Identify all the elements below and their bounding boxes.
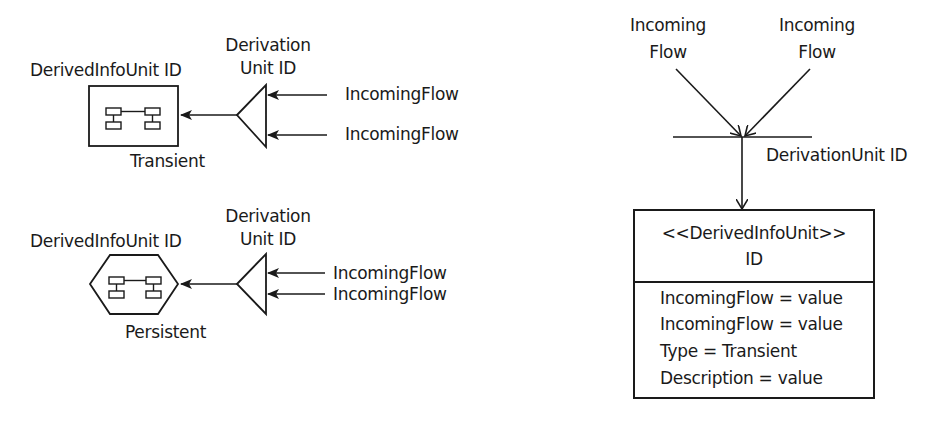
transient-derived-info-unit	[89, 86, 178, 146]
uml-incoming-flow-2-line2: Flow	[767, 44, 867, 61]
transient-derivation-label-line1: Derivation	[212, 37, 324, 54]
component-structure-icon	[106, 108, 160, 129]
uml-attribute-description: Description = value	[660, 370, 823, 387]
uml-attribute-incoming-flow-1: IncomingFlow = value	[660, 290, 843, 307]
uml-attribute-incoming-flow-2: IncomingFlow = value	[660, 316, 843, 333]
persistent-unit-hexagon	[90, 255, 178, 314]
transient-type-label: Transient	[130, 153, 205, 170]
transient-incoming-flow-label-2: IncomingFlow	[345, 126, 459, 143]
uml-incoming-flow-arrow-2	[745, 69, 810, 136]
transient-unit-box	[89, 86, 178, 146]
component-structure-icon	[109, 277, 161, 298]
persistent-incoming-flow-label-2: IncomingFlow	[333, 286, 447, 303]
uml-attribute-type: Type = Transient	[660, 343, 797, 360]
derivation-unit-triangle	[237, 254, 266, 314]
persistent-derived-info-unit	[90, 255, 178, 314]
persistent-incoming-flow-label-1: IncomingFlow	[333, 265, 447, 282]
uml-class-name: ID	[634, 251, 874, 268]
derivation-unit-triangle	[237, 85, 266, 147]
uml-derivation-unit-label: DerivationUnit ID	[766, 147, 907, 164]
uml-incoming-flow-2-line1: Incoming	[767, 17, 867, 34]
transient-unit-label: DerivedInfoUnit ID	[30, 62, 181, 79]
persistent-derivation-label-line2: Unit ID	[212, 231, 324, 248]
persistent-type-label: Persistent	[125, 324, 206, 341]
transient-derivation-label-line2: Unit ID	[212, 60, 324, 77]
uml-incoming-flow-1-line1: Incoming	[618, 17, 718, 34]
uml-class-stereotype: <<DerivedInfoUnit>>	[634, 225, 874, 242]
persistent-unit-label: DerivedInfoUnit ID	[30, 233, 181, 250]
persistent-derivation-label-line1: Derivation	[212, 208, 324, 225]
transient-incoming-flow-label-1: IncomingFlow	[345, 86, 459, 103]
uml-incoming-flow-1-line2: Flow	[618, 44, 718, 61]
uml-incoming-flow-arrow-1	[676, 69, 741, 136]
